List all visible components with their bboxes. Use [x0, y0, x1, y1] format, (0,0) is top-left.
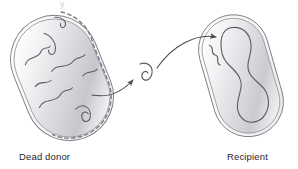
- donor-label: Dead donor: [19, 151, 70, 162]
- recipient-label: Recipient: [227, 151, 268, 162]
- diagram-canvas: y: [0, 0, 298, 169]
- recipient-cytoplasm: [195, 11, 288, 141]
- recipient-cell: [190, 6, 291, 144]
- free-dna-fragment: [140, 63, 152, 80]
- donor-cytoplasm: [2, 7, 122, 150]
- top-text-remnant: y: [60, 0, 65, 9]
- free-dna-path: [140, 63, 152, 80]
- donor-cell: [0, 2, 127, 154]
- transformation-diagram: y: [0, 0, 298, 169]
